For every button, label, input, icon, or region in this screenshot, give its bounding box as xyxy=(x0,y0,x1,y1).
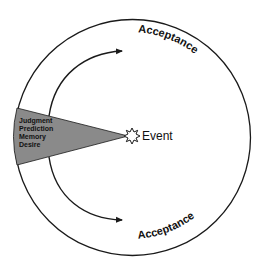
wedge-label-desire: Desire xyxy=(19,141,53,149)
lower-arrow xyxy=(49,157,122,220)
upper-arrow xyxy=(49,51,122,116)
acceptance-top-label: Acceptance xyxy=(138,22,201,55)
wedge-label-memory: Memory xyxy=(19,133,53,141)
acceptance-bottom-label: Acceptance xyxy=(137,209,196,241)
wedge-label-judgment: Judgment xyxy=(19,117,53,125)
starburst-icon xyxy=(124,128,140,144)
wedge-label-prediction: Prediction xyxy=(19,125,53,133)
event-label: Event xyxy=(142,129,173,143)
wedge-label-list: Judgment Prediction Memory Desire xyxy=(19,117,53,149)
